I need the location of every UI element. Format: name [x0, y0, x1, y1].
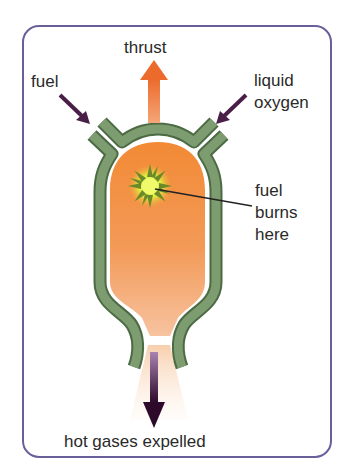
flame-burst-icon [128, 164, 172, 208]
burn-label-line2: burns [255, 203, 298, 222]
exhaust-label: hot gases expelled [64, 432, 206, 451]
thrust-label: thrust [124, 38, 167, 57]
burn-label-line3: here [255, 225, 289, 244]
rocket-engine-diagram: thrust fuel liquid oxygen fuel burns her… [0, 0, 342, 470]
thrust-arrow-icon [140, 60, 168, 123]
burn-label-line1: fuel [255, 181, 282, 200]
oxygen-label-line1: liquid [254, 71, 294, 90]
oxygen-label-line2: oxygen [254, 93, 309, 112]
fuel-input-label: fuel [31, 72, 58, 91]
oxygen-input-arrow-icon [216, 95, 246, 124]
fuel-input-arrow-icon [60, 95, 90, 124]
